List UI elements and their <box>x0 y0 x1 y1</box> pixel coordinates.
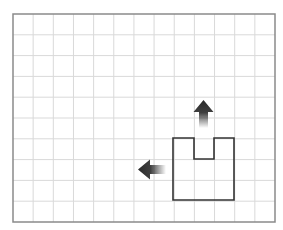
grid-diagram <box>0 0 283 230</box>
grid-lines <box>13 14 275 222</box>
left-arrow-icon <box>138 160 166 180</box>
u-shape-outline <box>173 138 234 200</box>
up-arrow-icon <box>194 100 214 128</box>
